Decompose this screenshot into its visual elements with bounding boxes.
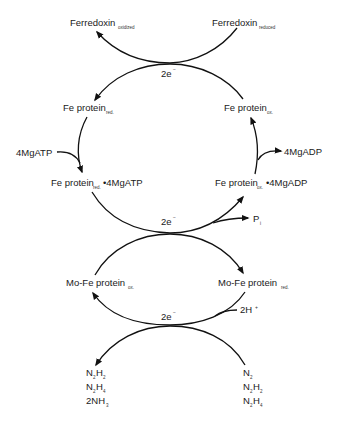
svg-text:2e: 2e [161,68,172,79]
svg-text:•4MgADP: •4MgADP [266,177,307,188]
svg-text:reduced: reduced [259,25,276,30]
svg-text:2H: 2H [240,304,252,315]
svg-text:ox.: ox. [257,185,263,190]
svg-text:ox.: ox. [128,285,134,290]
fe-protein-ox-label: Fe protein ox. [224,102,273,115]
svg-text:2NH: 2NH [86,395,105,406]
svg-text:Fe protein: Fe protein [63,102,106,113]
svg-text:•4MgATP: •4MgATP [103,177,143,188]
svg-text:2e: 2e [161,216,172,227]
svg-text:−: − [173,214,176,220]
svg-text:red.: red. [93,185,101,190]
svg-text:4: 4 [260,403,263,408]
mofe-protein-ox-label: Mo-Fe protein ox. [66,277,134,290]
svg-text:4: 4 [103,389,106,394]
nitrogenase-cycle-diagram: Ferredoxin oxidized Ferredoxin reduced 2… [0,0,339,421]
middle-crossing-curves [92,192,248,275]
svg-text:N: N [86,367,93,378]
fe-protein-red-label: Fe protein red. [63,102,114,115]
svg-text:Fe protein: Fe protein [224,102,267,113]
ferredoxin-reduced-label: Ferredoxin reduced [212,17,276,30]
bottom-crossing-curves [93,292,245,365]
arrow-fe-ox-adp-to-fe-ox [251,118,257,174]
svg-text:+: + [255,304,258,310]
top-crossing-curves [95,28,243,100]
electron-pair-middle-label: 2e − [161,214,176,227]
svg-text:Fe protein: Fe protein [51,177,94,188]
product-n2h4: N 2 H 4 [86,381,106,394]
product-n2h2: N 2 H 2 [86,367,106,380]
electron-pair-bottom-label: 2e − [161,309,176,322]
svg-text:Mo-Fe protein: Mo-Fe protein [66,277,125,288]
arrow-ferredoxin-oxidation [97,28,237,63]
svg-text:i: i [260,221,261,226]
product-2nh3: 2NH 3 [86,395,109,408]
mgatp-input-label: 4MgATP [16,147,52,158]
arrow-atp-binding [57,152,80,163]
svg-text:Mo-Fe protein: Mo-Fe protein [218,277,277,288]
ferredoxin-oxidized-label: Ferredoxin oxidized [70,17,135,30]
svg-text:−: − [173,309,176,315]
svg-text:P: P [253,213,259,224]
arrow-adp-release [258,151,281,160]
svg-text:H: H [96,367,103,378]
svg-text:−: − [173,66,176,72]
svg-text:N: N [86,381,93,392]
svg-text:2: 2 [103,375,106,380]
substrates-list: N 2 N 2 H 2 N 2 H 4 [243,367,263,408]
svg-text:H: H [253,381,260,392]
fe-protein-ox-adp-label: Fe protein ox. •4MgADP [215,177,307,190]
phosphate-label: P i [253,213,261,226]
svg-text:H: H [96,381,103,392]
svg-text:N: N [243,381,250,392]
substrate-n2h2: N 2 H 2 [243,381,263,394]
svg-text:N: N [243,395,250,406]
svg-text:Fe protein: Fe protein [215,177,258,188]
fe-protein-red-atp-label: Fe protein red. •4MgATP [51,177,143,190]
svg-text:Ferredoxin: Ferredoxin [70,17,115,28]
svg-text:red.: red. [106,110,114,115]
arrow-substrate-reduction [96,326,245,365]
svg-text:2: 2 [260,389,263,394]
products-list: N 2 H 2 N 2 H 4 2NH 3 [86,367,109,408]
svg-text:2: 2 [250,375,253,380]
electron-pair-top-label: 2e − [161,66,176,79]
svg-text:Ferredoxin: Ferredoxin [212,17,257,28]
svg-text:2e: 2e [161,311,172,322]
arrow-fe-red-to-fe-red-atp [78,117,87,172]
substrate-n2h4: N 2 H 4 [243,395,263,408]
substrate-n2: N 2 [243,367,253,380]
mofe-protein-red-label: Mo-Fe protein red. [218,277,289,290]
svg-text:3: 3 [106,403,109,408]
svg-text:H: H [253,395,260,406]
mgadp-output-label: 4MgADP [284,146,322,157]
protons-label: 2H + [240,304,258,315]
svg-text:ox.: ox. [267,110,273,115]
svg-text:red.: red. [281,285,289,290]
svg-text:oxidized: oxidized [118,25,135,30]
arrow-mofe-protein-reduction [95,234,243,275]
svg-text:N: N [243,367,250,378]
